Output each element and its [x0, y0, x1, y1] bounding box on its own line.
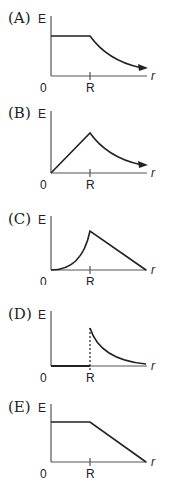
x-axis-label: r	[151, 166, 156, 180]
tick-label-r: R	[86, 275, 95, 285]
tick-label-r: R	[86, 81, 95, 95]
tick-label-r: R	[86, 371, 95, 385]
y-axis-label: E	[38, 213, 46, 227]
option-label: (A)	[8, 9, 31, 27]
origin-label: 0	[40, 275, 47, 285]
tick-label-r: R	[86, 467, 95, 481]
option-label: (D)	[8, 305, 32, 323]
option-c-graph: (C) E r 0 R	[0, 190, 175, 285]
origin-label: 0	[40, 81, 47, 95]
field-curve	[51, 133, 140, 173]
option-b-graph: (B) E r 0 R	[0, 95, 175, 190]
x-axis-label: r	[151, 263, 156, 277]
option-d-graph: (D) E r 0 R	[0, 285, 175, 380]
option-e-graph: (E) E r 0 R	[0, 390, 175, 485]
option-label: (C)	[8, 210, 31, 228]
field-curve	[51, 36, 140, 68]
y-axis-label: E	[38, 107, 46, 121]
field-curve	[51, 231, 146, 270]
y-axis-label: E	[38, 12, 46, 26]
y-axis-label: E	[38, 401, 46, 415]
arrowhead-icon	[138, 161, 148, 168]
origin-label: 0	[40, 178, 47, 190]
option-a-graph: (A) E r 0 R	[0, 0, 175, 95]
field-curve	[51, 422, 146, 462]
option-label: (E)	[8, 398, 31, 416]
x-axis-label: r	[151, 455, 156, 469]
option-label: (B)	[8, 104, 31, 122]
x-axis-label: r	[151, 359, 156, 373]
origin-label: 0	[40, 371, 47, 385]
y-axis-label: E	[38, 308, 46, 322]
tick-label-r: R	[86, 178, 95, 190]
field-curve	[90, 328, 146, 364]
arrowhead-icon	[138, 64, 148, 71]
x-axis-label: r	[151, 69, 156, 83]
origin-label: 0	[40, 467, 47, 481]
